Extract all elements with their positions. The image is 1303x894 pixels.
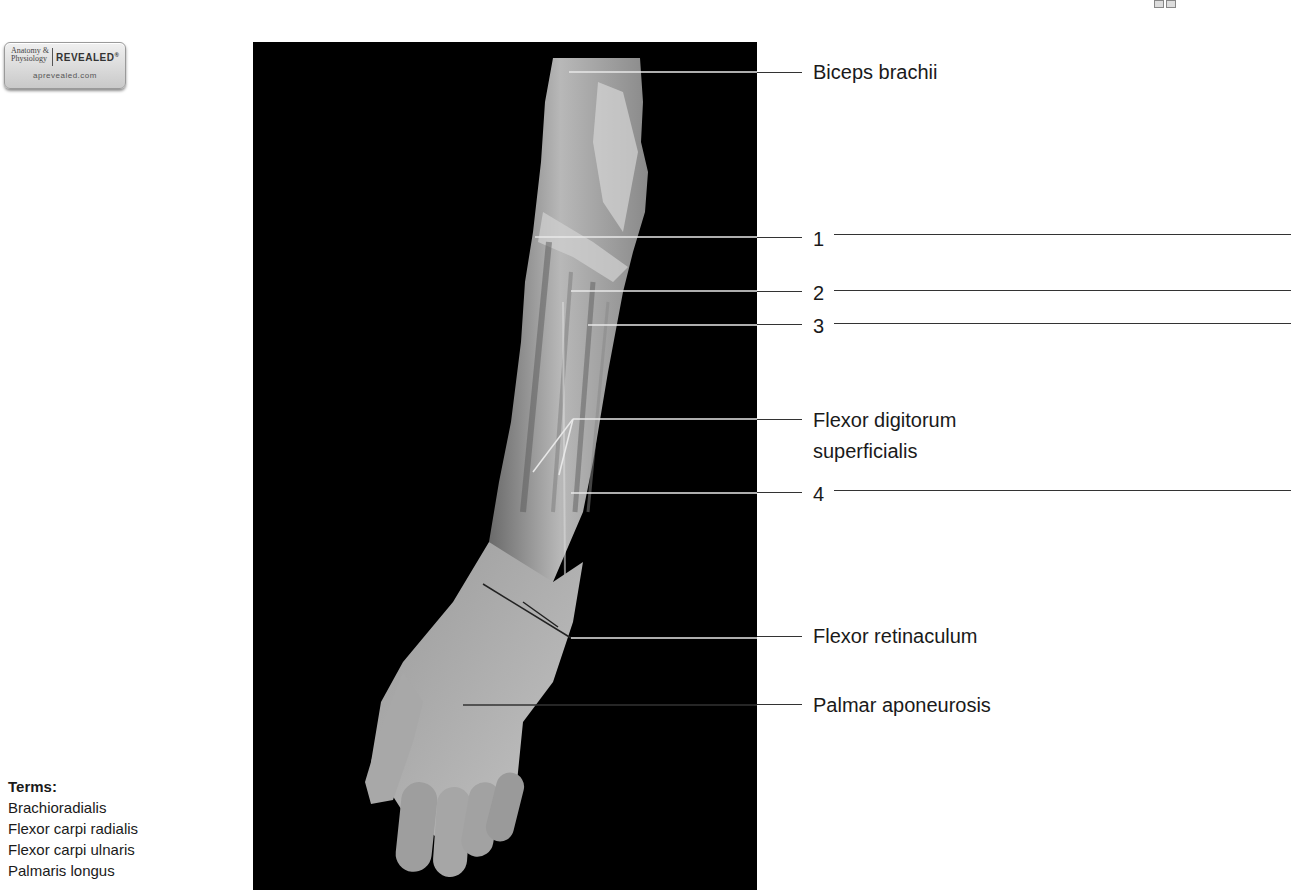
dissection-photo <box>253 42 757 890</box>
label-biceps-brachii: Biceps brachii <box>813 57 938 87</box>
leader-flexor-digitorum <box>757 419 802 420</box>
info-icon-2[interactable] <box>1166 0 1176 8</box>
leader-biceps <box>757 72 802 73</box>
answer-blank-2[interactable] <box>834 290 1291 291</box>
ap-revealed-logo[interactable]: Anatomy & Physiology REVEALED® apreveale… <box>4 42 126 89</box>
answer-blank-4[interactable] <box>834 490 1291 491</box>
logo-registered: ® <box>114 52 119 58</box>
term-item: Palmaris longus <box>8 860 138 881</box>
leader-1 <box>757 237 802 238</box>
terms-list: Terms: Brachioradialis Flexor carpi radi… <box>8 776 138 881</box>
label-number-3: 3 <box>813 311 824 341</box>
term-item: Brachioradialis <box>8 797 138 818</box>
label-number-4: 4 <box>813 479 824 509</box>
term-item: Flexor carpi radialis <box>8 818 138 839</box>
figure-header <box>0 0 1303 8</box>
logo-line2: Physiology <box>11 55 51 63</box>
label-palmar-aponeurosis: Palmar aponeurosis <box>813 690 991 720</box>
leader-palmar-aponeurosis <box>757 704 802 705</box>
leader-flexor-retinaculum <box>757 636 802 637</box>
label-flexor-digitorum-line1: Flexor digitorum <box>813 405 956 435</box>
logo-brand-text: REVEALED <box>56 52 114 63</box>
answer-blank-3[interactable] <box>834 323 1291 324</box>
term-item: Flexor carpi ulnaris <box>8 839 138 860</box>
leader-3 <box>757 324 802 325</box>
label-number-2: 2 <box>813 278 824 308</box>
logo-anatomy-physiology: Anatomy & Physiology <box>11 47 51 63</box>
label-number-1: 1 <box>813 224 824 254</box>
leader-2 <box>757 291 802 292</box>
terms-title: Terms: <box>8 776 138 797</box>
label-flexor-retinaculum: Flexor retinaculum <box>813 621 978 651</box>
logo-url: aprevealed.com <box>5 71 125 80</box>
answer-blank-1[interactable] <box>834 234 1291 235</box>
forearm-illustration <box>253 42 757 890</box>
leader-4 <box>757 492 802 493</box>
logo-brand: REVEALED® <box>56 52 119 63</box>
label-flexor-digitorum-line2: superficialis <box>813 436 917 466</box>
logo-divider <box>52 48 53 66</box>
info-icon[interactable] <box>1154 0 1164 8</box>
